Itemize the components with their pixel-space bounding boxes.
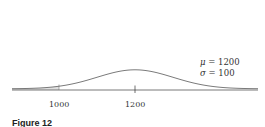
sd-annotation: σ = 100: [200, 68, 235, 78]
tick-label-1000: 1000: [49, 100, 69, 109]
mean-annotation: μ = 1200: [200, 57, 240, 67]
mu-value: = 1200: [208, 57, 239, 67]
mu-symbol: μ: [200, 57, 206, 67]
figure-caption: Figure 12: [12, 118, 52, 127]
sigma-value: = 100: [209, 68, 235, 78]
tick-label-1200: 1200: [125, 100, 145, 109]
sigma-symbol: σ: [200, 68, 206, 78]
